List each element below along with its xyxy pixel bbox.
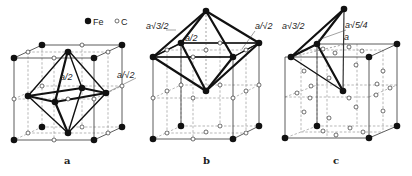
panel-label-a: a <box>64 155 71 166</box>
panel-c: a√3/2 a√5/4 a c <box>282 6 401 166</box>
panel-label-c: c <box>333 155 339 166</box>
panel-label-b: b <box>203 155 210 166</box>
dim-label-a-root3-half: a√3/2 <box>282 21 304 31</box>
panel-a: a/2 a/√2 a <box>11 42 136 166</box>
legend: Fe C <box>85 17 128 27</box>
bcc-interstitial-figure: Fe C <box>0 0 412 176</box>
dim-label-a-root2: a/√2 <box>117 70 134 80</box>
c-legend-label: C <box>121 17 128 27</box>
dim-label-a-root3-half: a√3/2 <box>146 21 168 31</box>
c-legend-icon <box>115 19 119 23</box>
fe-legend-label: Fe <box>93 17 104 27</box>
dim-label-a-half: a/2 <box>60 72 73 82</box>
dim-label-a: a <box>344 32 349 42</box>
dim-label-a-root2: a/√2 <box>255 21 272 31</box>
dim-label-a-half: a/2 <box>185 33 198 43</box>
panel-b: a√3/2 a/2 a/√2 b <box>146 8 272 166</box>
dim-label-a-root5-quarter: a√5/4 <box>345 20 367 30</box>
fe-legend-icon <box>85 18 91 24</box>
